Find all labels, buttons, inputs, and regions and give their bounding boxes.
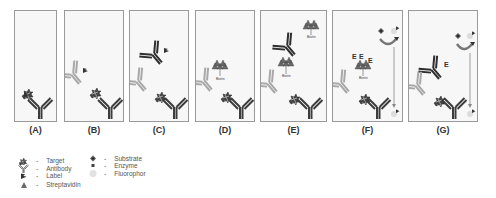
label-icon [472, 110, 476, 114]
primary-antibody [261, 68, 285, 100]
panel-d-illustration: Biotin [196, 11, 256, 123]
secondary-antibody [138, 39, 170, 71]
legend-item-label: - Label [18, 171, 62, 180]
biotin-label: Biotin [282, 74, 291, 78]
capture-antibody [442, 98, 467, 119]
biotin-label: Biotin [216, 77, 225, 81]
capture-antibody [98, 98, 123, 119]
panel-label-a: (A) [14, 125, 57, 135]
panel-c-illustration [130, 11, 190, 123]
primary-antibody [333, 68, 357, 100]
panel-g: E [408, 10, 478, 122]
biotin-label: Biotin [359, 76, 368, 80]
label-icon [396, 27, 400, 31]
primary-antibody [65, 59, 89, 91]
label-icon [396, 110, 400, 114]
secondary-antibody [271, 31, 303, 63]
panel-label-b: (B) [64, 125, 124, 135]
substrate-icon [378, 28, 384, 34]
panel-e: Biotin Biotin [260, 10, 327, 122]
panel-label-c: (C) [129, 125, 189, 135]
enzyme-icon: E [444, 61, 449, 68]
panel-e-illustration: Biotin Biotin [261, 11, 328, 123]
legend-item-streptavidin: - Streptavidin [18, 180, 81, 189]
fluorophor-icon [86, 169, 100, 178]
enzyme-icon: E [352, 53, 357, 60]
panel-c [129, 10, 189, 122]
panel-d: Biotin [195, 10, 255, 122]
conversion-arrow [380, 39, 396, 44]
target-icon [90, 88, 101, 99]
panel-label-f: (F) [332, 125, 403, 135]
panel-b-illustration [65, 11, 125, 123]
capture-antibody [28, 98, 53, 119]
capture-antibody [163, 98, 188, 119]
biotin-label: Biotin [307, 35, 316, 39]
streptavidin-icon [303, 20, 319, 29]
capture-antibody [229, 98, 254, 119]
conversion-arrow [457, 44, 472, 49]
panel-g-illustration: E [409, 11, 479, 123]
panel-label-d: (D) [195, 125, 255, 135]
panel-label-g: (G) [408, 125, 478, 135]
primary-antibody [130, 66, 154, 98]
streptavidin-icon [18, 180, 32, 189]
capture-antibody [298, 98, 323, 119]
panel-f-illustration: E E E Biotin [333, 11, 404, 123]
label-icon [472, 32, 476, 36]
streptavidin-icon [278, 57, 294, 66]
legend-item-fluorophor: - Fluorophor [86, 169, 146, 178]
primary-antibody [196, 66, 220, 98]
label-icon [164, 48, 169, 53]
panel-a-illustration [15, 11, 58, 123]
panel-label-e: (E) [260, 125, 327, 135]
streptavidin-icon [212, 60, 228, 69]
panel-a [14, 10, 57, 122]
label-icon [83, 68, 88, 73]
target-icon [289, 94, 300, 105]
panel-b [64, 10, 124, 122]
enzyme-icon: E [359, 53, 364, 60]
secondary-antibody [417, 54, 449, 86]
label-icon [18, 171, 32, 180]
panel-f: E E E Biotin [332, 10, 403, 122]
substrate-icon [455, 33, 461, 39]
enzyme-icon: E [368, 57, 373, 64]
primary-antibody [409, 70, 433, 102]
